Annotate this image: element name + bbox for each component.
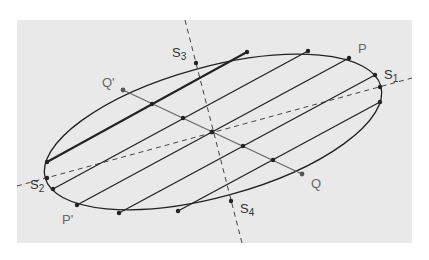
- label-s4: S4: [240, 202, 254, 218]
- label-q: Q: [311, 177, 321, 190]
- label-q-prime: Q': [102, 76, 115, 89]
- label-p-prime: P': [62, 213, 73, 226]
- label-s2: S2: [30, 178, 44, 194]
- label-s3: S3: [172, 46, 186, 62]
- label-s1: S1: [384, 68, 398, 84]
- label-p: P: [358, 42, 367, 55]
- diameter-s1-s2: [17, 78, 412, 186]
- points: [45, 49, 382, 215]
